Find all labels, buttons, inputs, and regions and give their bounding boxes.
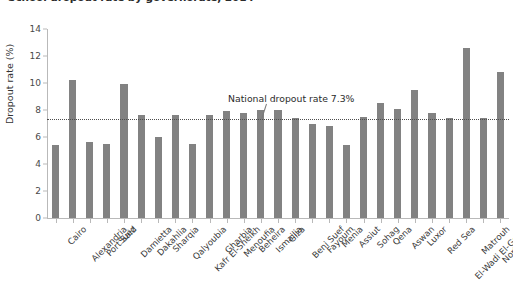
x-tick-mark <box>329 219 330 223</box>
x-tick-mark <box>158 219 159 223</box>
y-tick-mark <box>43 164 47 165</box>
x-tick-mark <box>261 219 262 223</box>
bar <box>155 137 162 218</box>
x-tick-mark <box>295 219 296 223</box>
x-tick-mark <box>381 219 382 223</box>
bar <box>360 117 367 218</box>
x-tick-mark <box>192 219 193 223</box>
x-tick-mark <box>73 219 74 223</box>
bar <box>446 118 453 218</box>
x-tick-mark <box>312 219 313 223</box>
bar <box>103 144 110 218</box>
bar <box>172 115 179 218</box>
x-tick-mark <box>483 219 484 223</box>
bar <box>138 115 145 218</box>
x-tick-mark <box>141 219 142 223</box>
plot-area: 02468101214 <box>47 29 509 218</box>
x-tick-mark <box>210 219 211 223</box>
bar <box>120 84 127 218</box>
bar <box>343 145 350 218</box>
x-tick-label: Red Sea <box>445 224 477 256</box>
x-tick-mark <box>398 219 399 223</box>
bar <box>274 110 281 218</box>
y-tick-mark <box>43 56 47 57</box>
bar <box>497 72 504 218</box>
x-tick-mark <box>227 219 228 223</box>
y-axis-title: Dropout rate (%) <box>4 44 15 124</box>
x-tick-mark <box>56 219 57 223</box>
bar <box>428 113 435 218</box>
bar <box>189 144 196 218</box>
bar <box>223 111 230 218</box>
bar <box>257 110 264 218</box>
x-tick-mark <box>364 219 365 223</box>
bar <box>394 109 401 218</box>
x-tick-mark <box>432 219 433 223</box>
bar <box>292 118 299 218</box>
bar <box>463 48 470 218</box>
y-tick-mark <box>43 137 47 138</box>
x-tick-mark <box>244 219 245 223</box>
x-tick-mark <box>449 219 450 223</box>
x-tick-mark <box>415 219 416 223</box>
bar <box>309 124 316 219</box>
x-tick-mark <box>124 219 125 223</box>
bar <box>86 142 93 218</box>
national-rate-label: National dropout rate 7.3% <box>228 93 354 104</box>
x-tick-label: Cairo <box>65 224 88 247</box>
bar <box>377 103 384 218</box>
y-tick-mark <box>43 29 47 30</box>
national-rate-line <box>47 119 509 120</box>
x-tick-mark <box>278 219 279 223</box>
x-tick-mark <box>466 219 467 223</box>
bar <box>69 80 76 218</box>
x-tick-mark <box>175 219 176 223</box>
chart-container: School dropout rate by governorate, 2014… <box>0 0 513 306</box>
bar <box>240 113 247 218</box>
y-tick-mark <box>43 110 47 111</box>
x-tick-label: Giza <box>287 224 307 244</box>
bar <box>206 115 213 218</box>
x-tick-mark <box>107 219 108 223</box>
x-tick-mark <box>346 219 347 223</box>
y-tick-mark <box>43 191 47 192</box>
bar <box>411 90 418 218</box>
y-tick-mark <box>43 83 47 84</box>
x-tick-mark <box>90 219 91 223</box>
bar <box>52 145 59 218</box>
chart-title: School dropout rate by governorate, 2014 <box>8 0 254 3</box>
bar <box>326 126 333 218</box>
x-tick-mark <box>500 219 501 223</box>
bar <box>480 118 487 218</box>
y-tick-mark <box>43 218 47 219</box>
